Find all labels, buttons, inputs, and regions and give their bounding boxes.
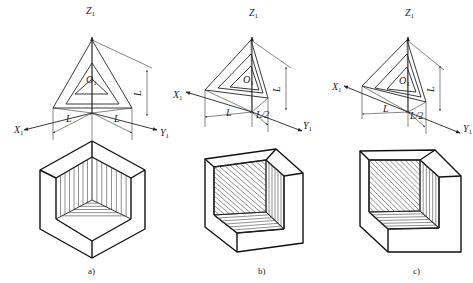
hatch-line [214, 181, 250, 213]
block-edge [439, 176, 461, 177]
dimension-label-vertical: L [132, 90, 143, 97]
hatch-back-face [214, 161, 266, 215]
block-edge [92, 219, 131, 241]
dimension-label-left: L [65, 113, 72, 124]
hatch-line [369, 170, 410, 211]
dimension-label-right: L [113, 113, 120, 124]
block-edge [284, 173, 303, 176]
hatch-line [226, 221, 276, 225]
hatch-line [374, 160, 420, 206]
sectioned-block [40, 141, 145, 258]
extension-line-top [407, 40, 444, 70]
hatch-bottom-face [62, 203, 125, 216]
origin-o1-label-subscript: 1 [406, 80, 410, 88]
x1-axis-label-subscript: 1 [338, 86, 342, 94]
x1-axis-label-subscript: 1 [20, 129, 24, 137]
hatch-line [224, 166, 266, 202]
hatch-line [214, 210, 219, 215]
z1-axis-label-subscript: 1 [411, 12, 415, 20]
x1-axis-label: X1 [13, 124, 24, 137]
block-outline [360, 150, 461, 252]
dimension-label-right: L/2 [409, 110, 423, 121]
hatch-line [235, 164, 266, 191]
x1-axis-label: X1 [172, 89, 183, 102]
caption-c: c) [413, 266, 420, 276]
section-triangle-2 [218, 54, 263, 93]
z1-axis-label-subscript: 1 [255, 12, 259, 20]
dimension-label-left-letter: L [65, 113, 72, 124]
triangle-spoke [53, 108, 92, 113]
dimension-right-arrow [92, 113, 132, 133]
dimension-label-right: L/2 [255, 109, 269, 120]
hatch-back-face [369, 160, 420, 212]
triangle-spoke [92, 108, 132, 113]
origin-o1-label-letter: O [243, 74, 250, 85]
hatch-line [369, 176, 405, 212]
hatch-line [214, 205, 224, 214]
dimension-label-vertical: L [271, 86, 282, 93]
hatch-line [369, 165, 415, 211]
diagram-svg: LLLZ1X1Y1O1 LL/2LZ1X1Y1O1 LL/2LZ1X1Y1O1 … [0, 0, 473, 283]
panel-b-dimetric: LL/2LZ1X1Y1O1 [172, 7, 313, 252]
hatch-line [218, 215, 269, 218]
origin-o1-label-subscript: 1 [250, 79, 254, 87]
panel-c-oblique-dimetric: LL/2LZ1X1Y1O1 [331, 7, 473, 252]
y1-axis-label: Y1 [303, 120, 313, 133]
hatch-line [245, 163, 266, 181]
hatch-line [410, 160, 420, 170]
z1-axis-label-subscript: 1 [92, 10, 96, 18]
hatch-line [415, 160, 420, 165]
axis-labels: Z1X1Y1O1 [13, 5, 170, 140]
origin-o1-label: O1 [399, 75, 410, 88]
hatch-left-face [61, 160, 88, 217]
dimension-left-arrow [53, 113, 92, 133]
hatch-line [379, 220, 430, 221]
hatch-line [369, 202, 379, 212]
hatch-line [384, 160, 420, 196]
dimension-label-right-letter: L [113, 113, 120, 124]
hatch-line [395, 160, 421, 186]
x1-axis-label: X1 [331, 81, 342, 94]
figure-canvas: LLLZ1X1Y1O1 LL/2LZ1X1Y1O1 LL/2LZ1X1Y1O1 … [0, 0, 473, 283]
block-edge [420, 150, 435, 160]
block-edge [205, 159, 214, 167]
y1-axis-label-subscript: 1 [166, 132, 170, 140]
hatch-line [372, 214, 423, 215]
block-edge [131, 170, 145, 178]
section-triangle-1 [362, 40, 426, 102]
y1-axis-label: Y1 [463, 123, 473, 136]
hatch-line [369, 207, 374, 212]
dimension-label-right-letter: L/2 [255, 109, 269, 120]
dimension-label-right-letter: L/2 [409, 110, 423, 121]
axis-labels: Z1X1Y1O1 [331, 7, 473, 136]
hatch-line [222, 218, 272, 221]
dimension-lines: LL/2L [362, 40, 444, 134]
hatch-line [389, 160, 420, 191]
nested-triangles [362, 40, 426, 112]
hatch-line [385, 225, 436, 226]
x-axis-arrow [24, 113, 92, 130]
hatch-line [230, 165, 266, 197]
dimension-label-left-letter: L [382, 103, 389, 114]
y1-axis-label-subscript: 1 [309, 125, 313, 133]
dimension-label-left-letter: L [225, 107, 232, 118]
panel-captions: a) b) c) [88, 266, 420, 276]
z1-axis-label: Z1 [86, 5, 96, 18]
dimension-label-left: L [382, 103, 389, 114]
hatch-line [261, 161, 266, 166]
extension-line-top [251, 40, 291, 68]
dimension-lines: LL/2L [205, 40, 291, 132]
origin-o1-label-letter: O [399, 75, 406, 86]
dimension-label-vertical: L [425, 86, 436, 93]
hatch-line [382, 222, 433, 223]
nested-triangles [205, 40, 268, 112]
y1-axis-label: Y1 [160, 127, 170, 140]
dimension-label-left: L [225, 107, 232, 118]
caption-b: b) [258, 266, 266, 276]
hatch-line [400, 160, 420, 180]
hatch-line [214, 196, 235, 214]
dimension-label-vertical-letter: L [271, 86, 282, 93]
dimension-label-vertical-letter: L [425, 86, 436, 93]
hatch-line [369, 186, 395, 212]
hatch-line [214, 191, 240, 214]
